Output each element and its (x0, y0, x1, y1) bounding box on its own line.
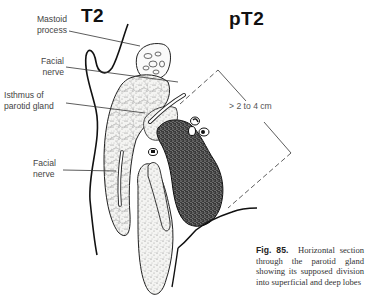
mastoid-process (136, 44, 170, 80)
label-isthmus: Isthmus of parotid gland (4, 90, 74, 111)
label-facial-nerve-lower: Facial nerve (33, 158, 63, 179)
label-mastoid-process: Mastoid process (27, 14, 67, 35)
figure-caption: Fig. 85. Horizontal section through the … (256, 245, 364, 287)
figure-number: Fig. 85. (256, 245, 288, 255)
anatomical-figure: T2 pT2 Mastoid process Facial nerve Isth… (0, 0, 365, 308)
measurement-label: > 2 to 4 cm (229, 101, 272, 112)
panel-title-pt2: pT2 (229, 8, 264, 30)
label-facial-nerve-upper: Facial nerve (30, 56, 64, 77)
panel-title-t2: T2 (81, 5, 104, 27)
